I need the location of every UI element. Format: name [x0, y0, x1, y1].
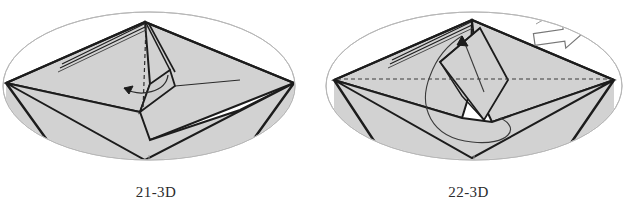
origami-figure-21-3d	[0, 0, 312, 180]
diagram-page: 21-3D	[0, 0, 625, 211]
figure-caption-21: 21-3D	[0, 184, 312, 201]
figure-panel-21: 21-3D	[0, 0, 312, 211]
origami-figure-22-3d	[312, 0, 625, 180]
figure-panel-22: 22-3D	[312, 0, 625, 211]
figure-caption-22: 22-3D	[312, 184, 625, 201]
